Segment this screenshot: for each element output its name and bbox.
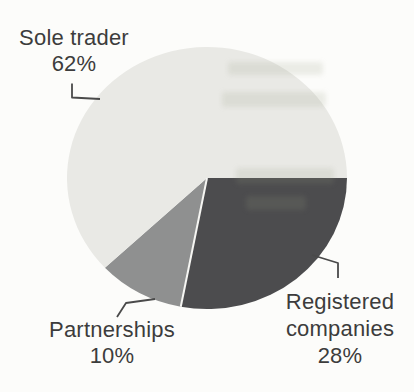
callout-registered-companies-label-line1: Registered: [270, 288, 410, 315]
scan-bleed-artifact: [228, 62, 323, 75]
callout-partnerships-label: Partnerships: [42, 317, 182, 343]
scan-bleed-artifact: [236, 168, 334, 184]
callout-sole-trader-percent: 62%: [8, 51, 140, 77]
callout-partnerships-percent: 10%: [42, 343, 182, 369]
pie-chart-figure: Sole trader 62% Partnerships 10% Registe…: [0, 0, 414, 392]
callout-registered-companies-percent: 28%: [270, 342, 410, 369]
leader-line-partnerships: [117, 299, 155, 317]
scan-bleed-artifact: [222, 92, 326, 107]
scan-bleed-artifact: [246, 196, 306, 210]
leader-line-sole-trader: [72, 84, 100, 100]
callout-sole-trader-label: Sole trader: [8, 25, 140, 51]
callout-partnerships: Partnerships 10%: [42, 317, 182, 369]
callout-sole-trader: Sole trader 62%: [8, 25, 140, 77]
callout-registered-companies: Registered companies 28%: [270, 288, 410, 369]
callout-registered-companies-label-line2: companies: [270, 315, 410, 342]
